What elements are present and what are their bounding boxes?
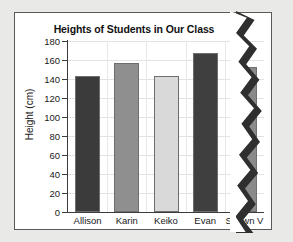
y-axis-tick-label: 40	[30, 169, 60, 180]
chart-title: Heights of Students in Our Class	[15, 23, 253, 35]
bar	[193, 53, 218, 212]
y-axis-tick-label: 0	[30, 207, 60, 218]
y-axis-tick	[62, 212, 67, 213]
gridline-vertical	[225, 41, 226, 212]
y-axis-tick-label: 80	[30, 131, 60, 142]
y-axis-tick-label: 160	[30, 55, 60, 66]
y-axis-tick	[62, 60, 67, 61]
y-axis-tick	[62, 41, 67, 42]
bar	[154, 76, 179, 212]
bar	[114, 63, 139, 212]
y-axis-tick	[62, 193, 67, 194]
y-axis-tick	[62, 174, 67, 175]
gridline-vertical	[107, 41, 108, 212]
y-axis-tick	[62, 117, 67, 118]
bar	[75, 76, 100, 212]
gridline-vertical	[146, 41, 147, 212]
page-background: Heights of Students in Our Class Height …	[0, 0, 293, 242]
y-axis-tick	[62, 155, 67, 156]
y-axis-tick	[62, 79, 67, 80]
y-axis-tick-label: 140	[30, 74, 60, 85]
y-axis-tick-label: 120	[30, 93, 60, 104]
y-axis-tick-label: 60	[30, 150, 60, 161]
gridline-vertical	[186, 41, 187, 212]
y-axis-tick	[62, 136, 67, 137]
y-axis-tick-label: 20	[30, 188, 60, 199]
y-axis-tick	[62, 98, 67, 99]
y-axis-tick-label: 100	[30, 112, 60, 123]
y-axis-tick-label: 180	[30, 36, 60, 47]
